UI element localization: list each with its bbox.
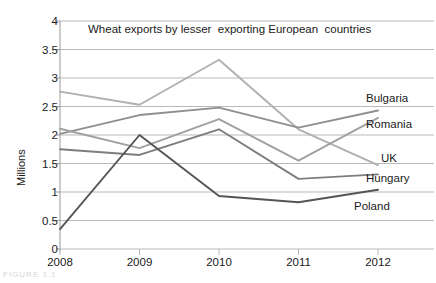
y-axis-tick-label: 1.5 <box>24 159 58 169</box>
data-series-group <box>60 60 378 229</box>
x-axis-tick-label: 2012 <box>355 256 401 268</box>
axis-ticks <box>56 21 378 255</box>
series-label-hungary: Hungary <box>366 172 409 184</box>
x-axis-tick-label: 2008 <box>37 256 83 268</box>
y-axis-title: Millions <box>15 149 27 186</box>
series-label-poland: Poland <box>354 200 390 212</box>
y-axis-tick-label: 2.5 <box>24 102 58 112</box>
y-axis-tick-label: 0.5 <box>24 216 58 226</box>
y-axis-tick-label: 2 <box>24 130 58 140</box>
figure-caption-fragment: FIGURE 1.1 <box>3 270 57 279</box>
y-axis-tick-label: 1 <box>24 187 58 197</box>
y-axis-tick-label: 3 <box>24 73 58 83</box>
gridlines <box>60 21 434 249</box>
series-label-uk: UK <box>381 152 397 164</box>
y-axis-title-wrap: Millions <box>2 108 16 188</box>
y-axis-tick-label: 4 <box>24 16 58 26</box>
series-line-bulgaria <box>60 60 378 165</box>
y-axis-tick-label: 0 <box>24 244 58 254</box>
series-line-poland <box>60 135 378 229</box>
series-line-uk <box>60 118 378 161</box>
y-axis-tick-labels: 00.511.522.533.54 <box>22 0 58 283</box>
series-label-bulgaria: Bulgaria <box>366 92 408 104</box>
series-label-romania: Romania <box>366 118 412 130</box>
chart-title: Wheat exports by lesser exporting Europe… <box>88 23 371 35</box>
y-axis-tick-label: 3.5 <box>24 45 58 55</box>
line-chart: 00.511.522.533.54 Millions 2008200920102… <box>0 0 436 283</box>
x-axis-tick-label: 2009 <box>117 256 163 268</box>
chart-plot-area <box>0 0 436 283</box>
x-axis-tick-label: 2011 <box>276 256 322 268</box>
x-axis-tick-label: 2010 <box>196 256 242 268</box>
